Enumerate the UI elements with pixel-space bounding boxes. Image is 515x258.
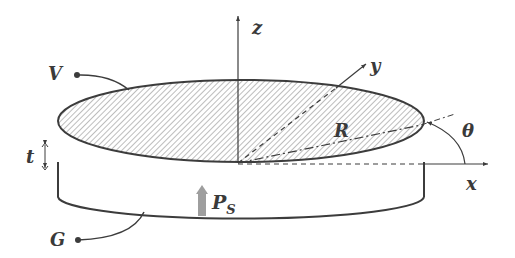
thickness-marker <box>42 143 48 170</box>
radius-extension <box>421 114 455 125</box>
z-axis-label: z <box>251 17 263 38</box>
bottom-electrode-label: G <box>50 229 65 250</box>
pressure-subscript: S <box>226 202 235 217</box>
disc-side-wall <box>58 162 424 219</box>
pressure-main: P <box>211 191 227 213</box>
top-electrode-label: V <box>48 63 64 84</box>
disc-top-face <box>58 80 424 162</box>
theta-label: θ <box>462 120 474 141</box>
disc-diagram: z y x R θ t V G PS <box>0 0 515 258</box>
bottom-electrode-lead <box>75 212 144 243</box>
radius-label: R <box>333 120 349 141</box>
y-axis <box>336 64 366 88</box>
theta-arc <box>427 122 465 164</box>
x-axis-label: x <box>465 173 477 194</box>
y-axis-label: y <box>369 55 382 76</box>
thickness-label: t <box>26 146 35 167</box>
top-electrode-lead <box>74 72 129 90</box>
